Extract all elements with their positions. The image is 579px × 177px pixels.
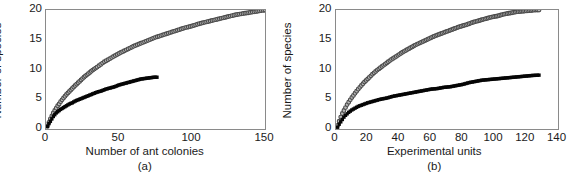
b-x-tick-label: 40 xyxy=(392,131,405,143)
panel-a-x-ticks: 050100150 xyxy=(0,129,290,145)
b-x-tick-label: 120 xyxy=(515,131,534,143)
a-y-tick-label: 15 xyxy=(16,33,42,44)
a-x-tick-label: 50 xyxy=(112,131,125,143)
panel-b-letter: (b) xyxy=(290,160,579,172)
b-x-tick-label: 20 xyxy=(360,131,373,143)
a-y-tick-label: 10 xyxy=(16,63,42,74)
b-y-tick-label: 15 xyxy=(306,33,332,44)
a-series-open-circles xyxy=(46,10,265,128)
panel-a-x-axis-label: Number of ant colonies xyxy=(0,145,290,157)
b-x-tick-label: 100 xyxy=(483,131,502,143)
panel-a-plot-area xyxy=(45,9,266,130)
b-x-tick-label: 140 xyxy=(547,131,566,143)
species-accumulation-figure: Number of species 20151050 050100150 Num… xyxy=(0,0,579,177)
b-x-tick-label: 60 xyxy=(423,131,436,143)
b-x-tick-label: 0 xyxy=(331,131,337,143)
a-x-tick-label: 100 xyxy=(181,131,200,143)
panel-a-data-canvas xyxy=(46,10,265,129)
a-x-tick-label: 0 xyxy=(42,131,48,143)
panel-b-y-ticks: 20151050 xyxy=(304,9,332,128)
b-x-tick-label: 80 xyxy=(455,131,468,143)
panel-b: Number of species 20151050 0204060801001… xyxy=(290,0,579,177)
b-series-open-circles xyxy=(336,10,541,127)
panel-a-y-ticks: 20151050 xyxy=(14,9,42,128)
a-y-tick-label: 20 xyxy=(16,3,42,14)
panel-b-x-axis-label: Experimental units xyxy=(290,145,579,157)
b-y-tick-label: 10 xyxy=(306,63,332,74)
panel-b-plot-area xyxy=(335,9,559,130)
panel-a-letter: (a) xyxy=(0,160,290,172)
panel-a: Number of species 20151050 050100150 Num… xyxy=(0,0,290,177)
panel-b-x-ticks: 020406080100120140 xyxy=(290,129,579,145)
b-y-tick-label: 20 xyxy=(306,3,332,14)
b-y-tick-label: 5 xyxy=(306,92,332,103)
a-y-tick-label: 5 xyxy=(16,92,42,103)
panel-b-data-canvas xyxy=(336,10,558,129)
a-x-tick-label: 150 xyxy=(254,131,273,143)
